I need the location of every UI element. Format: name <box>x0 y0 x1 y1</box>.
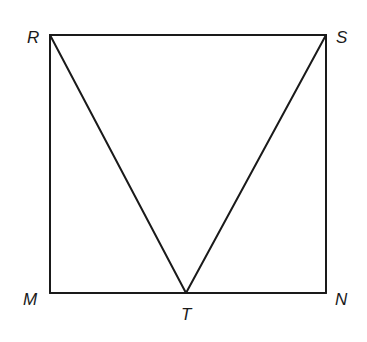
label-N: N <box>335 290 348 309</box>
segment-ST <box>186 35 326 293</box>
label-T: T <box>181 305 193 324</box>
segment-RT <box>50 35 186 293</box>
geometry-diagram: R S M N T <box>0 0 367 342</box>
label-S: S <box>336 28 348 47</box>
label-R: R <box>27 28 39 47</box>
label-M: M <box>23 290 38 309</box>
